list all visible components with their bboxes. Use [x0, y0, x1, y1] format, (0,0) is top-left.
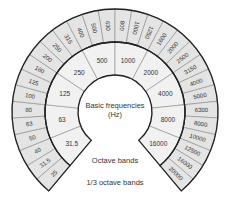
octave-band-label: 1000	[121, 57, 136, 64]
octave-band-label: 63	[58, 116, 66, 123]
third-octave-band-label: 800	[119, 21, 126, 32]
third-octave-band-label: 630	[105, 21, 112, 32]
center-title-line2: (Hz)	[70, 110, 160, 119]
center-title: Basic frequencies (Hz)	[70, 101, 160, 119]
octave-band-label: 250	[74, 69, 85, 76]
octave-band-label: 2000	[144, 69, 159, 76]
octave-band-label: 125	[59, 90, 70, 97]
octave-band-label: 500	[97, 57, 108, 64]
octave-band-label: 8000	[161, 116, 176, 123]
center-title-line1: Basic frequencies	[70, 101, 160, 110]
octave-band-label: 4000	[158, 90, 173, 97]
third-octave-band-label: 80	[25, 107, 32, 113]
third-octave-bands-label: 1/3 octave bands	[65, 178, 165, 187]
third-octave-band-label: 6300	[195, 107, 209, 113]
octave-band-label: 16000	[149, 140, 167, 147]
octave-bands-label: Octave bands	[70, 156, 160, 165]
octave-band-label: 31.5	[65, 140, 78, 147]
